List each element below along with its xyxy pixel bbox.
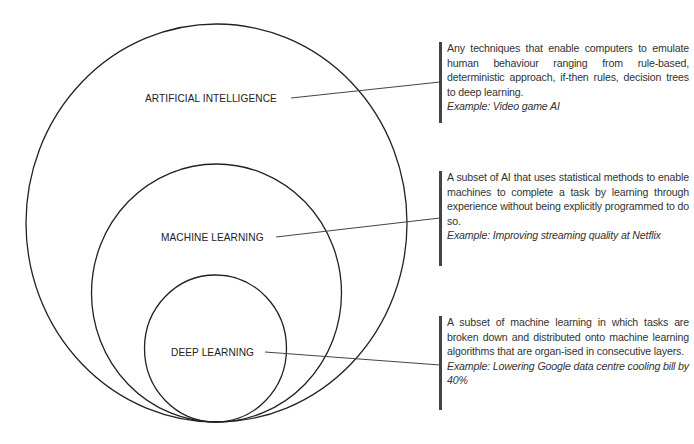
description-ai: Any techniques that enable computers to … bbox=[447, 41, 689, 114]
description-dl: A subset of machine learning in which ta… bbox=[447, 315, 689, 388]
label-machine-learning: MACHINE LEARNING bbox=[161, 231, 264, 243]
example: Example: Lowering Google data centre coo… bbox=[447, 360, 689, 387]
description-ml: A subset of AI that uses statistical met… bbox=[447, 170, 689, 243]
example-text: Video game AI bbox=[493, 100, 560, 112]
description-bar-ai bbox=[439, 42, 442, 123]
label-deep-learning: DEEP LEARNING bbox=[171, 346, 254, 358]
description-bar-dl bbox=[439, 316, 442, 410]
description-text: Any techniques that enable computers to … bbox=[447, 42, 689, 98]
label-artificial-intelligence: ARTIFICIAL INTELLIGENCE bbox=[145, 92, 277, 104]
description-bar-ml bbox=[439, 171, 442, 266]
description-text: A subset of AI that uses statistical met… bbox=[447, 171, 689, 227]
example: Example: Improving streaming quality at … bbox=[447, 229, 661, 241]
circle-artificial-intelligence bbox=[26, 24, 407, 422]
circle-machine-learning bbox=[92, 164, 342, 422]
example-label: Example: bbox=[447, 360, 490, 372]
example-label: Example: bbox=[447, 229, 490, 241]
example-label: Example: bbox=[447, 100, 490, 112]
connector-ai bbox=[291, 82, 440, 98]
example-text: Improving streaming quality at Netflix bbox=[493, 229, 661, 241]
example: Example: Video game AI bbox=[447, 100, 560, 112]
connector-ml bbox=[276, 218, 440, 237]
description-text: A subset of machine learning in which ta… bbox=[447, 316, 689, 357]
